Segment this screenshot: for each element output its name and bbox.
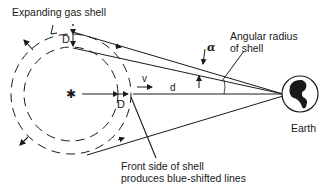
- sightline-arrow-lower: [118, 138, 124, 140]
- shell-label-pointer: [51, 25, 57, 34]
- thickness-label-front: D: [117, 98, 125, 110]
- earth-label: Earth: [291, 122, 316, 134]
- star-icon: ✱: [66, 87, 76, 101]
- front-side-label: Front side of shell produces blue-shifte…: [121, 160, 246, 184]
- angular-radius-pointer: [222, 51, 244, 81]
- expansion-arrow-upleft: [24, 40, 33, 50]
- angular-radius-label: Angular radius of shell: [230, 30, 298, 54]
- angle-arc: [224, 80, 225, 94]
- shell-label: Expanding gas shell: [12, 6, 106, 18]
- expansion-arrow-downleft: [20, 137, 28, 145]
- alpha-label: α: [207, 41, 215, 54]
- front-side-pointer: [131, 97, 156, 158]
- thickness-label-top: D: [62, 33, 70, 45]
- velocity-label: v: [142, 73, 147, 84]
- distance-label: d: [170, 82, 176, 93]
- sightline-inner-top: [73, 48, 283, 94]
- alpha-arrow-top: [203, 49, 205, 64]
